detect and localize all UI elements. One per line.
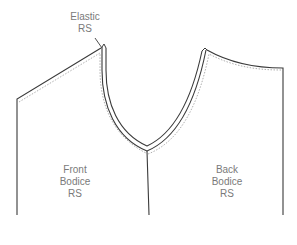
back-bodice-label: Back Bodice RS [208, 164, 246, 200]
elastic-leader-line [95, 38, 102, 48]
front-bodice-label-line1: Front [56, 164, 94, 176]
elastic-left-tip [102, 44, 106, 48]
elastic-label: Elastic RS [68, 11, 102, 35]
front-bodice-label-line2: Bodice [56, 176, 94, 188]
back-bodice-label-line3: RS [208, 188, 246, 200]
front-bodice-label: Front Bodice RS [56, 164, 94, 200]
back-stitch-line [148, 54, 281, 154]
elastic-label-line2: RS [68, 23, 102, 35]
elastic-outer-edge [102, 47, 206, 151]
back-bodice-label-line2: Bodice [208, 176, 246, 188]
bodice-diagram [0, 0, 297, 245]
center-seam-line [147, 151, 149, 215]
front-bodice-label-line3: RS [56, 188, 94, 200]
back-bodice-label-line1: Back [208, 164, 246, 176]
elastic-label-line1: Elastic [68, 11, 102, 23]
